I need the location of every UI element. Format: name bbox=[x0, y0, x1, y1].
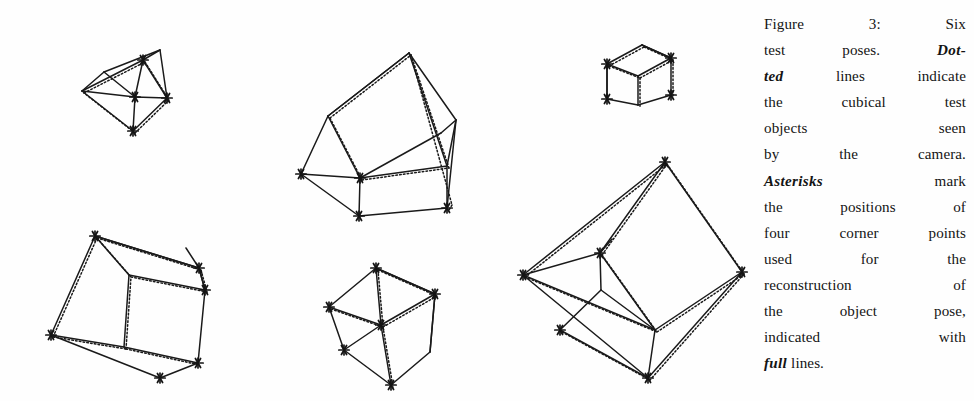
caption-word: Dot- bbox=[937, 37, 966, 63]
pose-top-left-solid-edges bbox=[82, 50, 167, 131]
solid-edge bbox=[360, 133, 441, 178]
caption-word: Asterisks bbox=[764, 168, 823, 194]
dotted-edge bbox=[97, 238, 201, 270]
pose-bottom-left-dotted-edges bbox=[53, 238, 207, 365]
asterisk-icon bbox=[376, 320, 386, 330]
pose-bottom-right bbox=[518, 157, 747, 383]
asterisk-icon bbox=[666, 53, 676, 63]
dotted-edge bbox=[131, 277, 207, 292]
caption-line: fourcornerpoints bbox=[764, 220, 966, 246]
dotted-edge bbox=[525, 164, 667, 277]
dotted-edge bbox=[609, 47, 644, 66]
solid-edge bbox=[51, 335, 124, 347]
pose-top-right-solid-edges bbox=[607, 45, 671, 105]
dotted-edge bbox=[53, 238, 97, 337]
solid-edge bbox=[344, 325, 381, 350]
solid-edge bbox=[600, 162, 665, 253]
caption-word: the bbox=[839, 141, 858, 167]
asterisk-icon bbox=[355, 173, 365, 183]
solid-edge bbox=[359, 208, 447, 216]
caption-word: corner bbox=[839, 220, 878, 246]
solid-edge bbox=[301, 174, 359, 216]
figure-root: Figure3:Sixtestposes.Dot-tedlinesindicat… bbox=[0, 0, 974, 401]
caption-line: full lines. bbox=[764, 350, 966, 376]
caption-word: test bbox=[945, 89, 966, 115]
solid-edge bbox=[376, 268, 435, 294]
caption-word: Six bbox=[946, 11, 966, 37]
solid-edge bbox=[328, 116, 360, 178]
solid-edge bbox=[133, 98, 167, 131]
dotted-edge bbox=[331, 309, 383, 327]
caption-word: Figure bbox=[764, 11, 804, 37]
pose-bottom-right-solid-edges bbox=[523, 162, 742, 378]
figure-caption: Figure3:Sixtestposes.Dot-tedlinesindicat… bbox=[764, 11, 966, 376]
caption-line: thepositionsof bbox=[764, 194, 966, 220]
solid-edge bbox=[95, 236, 199, 268]
solid-edge bbox=[523, 275, 648, 378]
dotted-edge bbox=[562, 332, 650, 380]
asterisk-icon bbox=[193, 358, 203, 368]
pose-bottom-middle bbox=[324, 263, 440, 390]
asterisk-icon bbox=[194, 263, 204, 273]
pose-bottom-left-solid-edges bbox=[51, 236, 205, 378]
solid-edge bbox=[160, 363, 198, 378]
caption-word: the bbox=[764, 194, 783, 220]
solid-edge bbox=[391, 352, 430, 385]
caption-word: the bbox=[764, 89, 783, 115]
caption-line: bythecamera. bbox=[764, 141, 966, 167]
solid-edge bbox=[344, 350, 391, 385]
asterisk-icon bbox=[430, 289, 440, 299]
asterisk-icon bbox=[666, 90, 676, 100]
pose-top-right bbox=[602, 45, 676, 107]
solid-edge bbox=[82, 60, 143, 91]
solid-edge bbox=[638, 58, 671, 76]
solid-edge bbox=[329, 268, 376, 307]
asterisk-icon bbox=[602, 59, 612, 69]
caption-line: testposes.Dot- bbox=[764, 37, 966, 63]
caption-line: Figure3:Six bbox=[764, 11, 966, 37]
solid-edge bbox=[607, 64, 638, 76]
caption-word: camera. bbox=[918, 141, 966, 167]
dotted-edge bbox=[135, 100, 169, 133]
caption-word: of bbox=[953, 272, 966, 298]
caption-word: lines bbox=[836, 63, 865, 89]
pose-bottom-middle-asterisks bbox=[324, 263, 440, 390]
caption-word: of bbox=[953, 194, 966, 220]
solid-edge bbox=[301, 116, 328, 174]
caption-word: lines. bbox=[791, 350, 824, 376]
caption-word: reconstruction bbox=[764, 272, 852, 298]
caption-word: positions bbox=[840, 194, 895, 220]
solid-edge bbox=[301, 174, 360, 178]
six-test-poses-svg bbox=[0, 0, 760, 401]
solid-edge bbox=[560, 330, 648, 378]
caption-word: with bbox=[939, 324, 966, 350]
caption-word: points bbox=[928, 220, 966, 246]
solid-edge bbox=[198, 290, 205, 363]
solid-edge bbox=[124, 347, 198, 363]
dotted-edge bbox=[53, 337, 126, 349]
solid-edge bbox=[409, 53, 456, 120]
caption-word: full bbox=[764, 350, 787, 376]
caption-word: the bbox=[947, 246, 966, 272]
caption-word: used bbox=[764, 246, 792, 272]
solid-edge bbox=[381, 294, 435, 325]
caption-word: ted bbox=[764, 63, 783, 89]
solid-edge bbox=[523, 253, 600, 275]
asterisk-icon bbox=[155, 373, 165, 383]
solid-edge bbox=[665, 162, 742, 272]
solid-edge bbox=[430, 294, 435, 352]
caption-line: indicatedwith bbox=[764, 324, 966, 350]
pose-top-middle-dotted-edges bbox=[330, 55, 452, 210]
caption-word: four bbox=[764, 220, 790, 246]
dotted-edge bbox=[383, 327, 393, 387]
caption-word: test bbox=[764, 37, 785, 63]
figure-drawing-plate bbox=[0, 0, 760, 401]
solid-edge bbox=[82, 91, 133, 131]
caption-line: reconstructionof bbox=[764, 272, 966, 298]
solid-edge bbox=[51, 236, 95, 335]
dotted-edge bbox=[383, 296, 437, 327]
dotted-edge bbox=[330, 118, 362, 180]
dotted-edge bbox=[330, 55, 411, 118]
solid-edge bbox=[523, 162, 665, 275]
caption-word: the bbox=[764, 298, 783, 324]
